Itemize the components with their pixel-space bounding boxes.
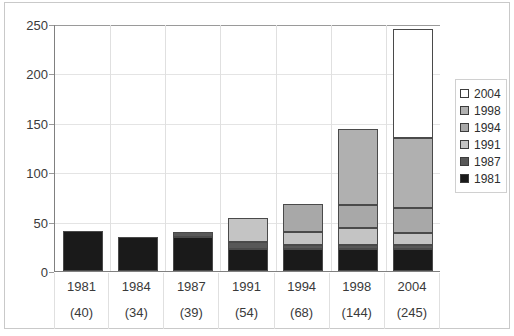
- x-axis-category-1998: 1998(144): [330, 273, 385, 329]
- category-separator: [110, 25, 111, 271]
- bar-segment-1981: [63, 231, 103, 271]
- x-axis-tick-label: 2004: [385, 279, 439, 294]
- category-separator: [165, 25, 166, 271]
- x-axis: 1981(40)1984(34)1987(39)1991(54)1994(68)…: [54, 273, 440, 329]
- y-axis-tick-label: 150: [8, 118, 48, 131]
- legend-item-2004[interactable]: 2004: [460, 85, 503, 102]
- x-axis-total-label: (245): [385, 305, 439, 320]
- bar-group-1981: [55, 25, 110, 271]
- x-axis-total-label: (144): [330, 305, 384, 320]
- x-axis-total-label: (34): [109, 305, 163, 320]
- bar-segment-1981: [393, 249, 433, 271]
- bar-segment-1991: [283, 232, 323, 245]
- legend-item-label: 2004: [474, 88, 501, 100]
- bar-segment-1991: [393, 233, 433, 245]
- x-axis-tick-label: 1987: [164, 279, 218, 294]
- bar-segment-1981: [283, 249, 323, 271]
- bar-segment-1981: [173, 237, 213, 271]
- bar-segment-1991: [228, 218, 268, 243]
- legend-item-1998[interactable]: 1998: [460, 102, 503, 119]
- x-axis-category-1984: 1984(34): [109, 273, 164, 329]
- bar-group-1998: [331, 25, 386, 271]
- bar-segment-1987: [338, 245, 378, 249]
- legend-item-1991[interactable]: 1991: [460, 136, 503, 153]
- y-axis-tick-label: 100: [8, 167, 48, 180]
- chart-figure: 050100150200250 1981(40)1984(34)1987(39)…: [0, 0, 514, 336]
- bar-segment-1981: [338, 249, 378, 271]
- x-axis-tick-label: 1994: [275, 279, 329, 294]
- x-axis-category-1987: 1987(39): [164, 273, 219, 329]
- legend-swatch-icon: [460, 123, 469, 132]
- plot-area: [54, 25, 440, 272]
- y-axis-tick-label: 200: [8, 68, 48, 81]
- bar-segment-1987: [228, 242, 268, 249]
- bar-segment-1998: [393, 138, 433, 208]
- x-axis-category-1981: 1981(40): [54, 273, 109, 329]
- x-axis-tick-label: 1998: [330, 279, 384, 294]
- x-axis-total-label: (39): [164, 305, 218, 320]
- bar-segment-1981: [118, 237, 158, 271]
- bar-group-1991: [220, 25, 275, 271]
- x-axis-tick-label: 1984: [109, 279, 163, 294]
- bar-segment-1987: [283, 245, 323, 249]
- bar-segment-1981: [228, 249, 268, 271]
- bar-segment-1994: [393, 208, 433, 234]
- x-axis-category-1994: 1994(68): [275, 273, 330, 329]
- category-separator: [331, 25, 332, 271]
- category-separator: [220, 25, 221, 271]
- cropped-title-strip: [0, 0, 514, 3]
- legend-swatch-icon: [460, 89, 469, 98]
- x-axis-total-label: (54): [219, 305, 273, 320]
- x-axis-tick-label: 1981: [55, 279, 108, 294]
- legend-item-1987[interactable]: 1987: [460, 153, 503, 170]
- y-axis-tick-label: 0: [8, 266, 48, 279]
- bar-group-1987: [165, 25, 220, 271]
- x-axis-total-label: (68): [275, 305, 329, 320]
- bar-group-2004: [386, 25, 441, 271]
- bar-segment-2004: [393, 29, 433, 138]
- legend-swatch-icon: [460, 174, 469, 183]
- x-axis-category-1991: 1991(54): [219, 273, 274, 329]
- bar-group-1984: [110, 25, 165, 271]
- bar-group-1994: [276, 25, 331, 271]
- category-separator: [276, 25, 277, 271]
- bar-segment-1987: [393, 245, 433, 249]
- legend-item-label: 1991: [474, 139, 501, 151]
- legend-swatch-icon: [460, 140, 469, 149]
- legend-item-label: 1998: [474, 105, 501, 117]
- legend-item-label: 1981: [474, 173, 501, 185]
- legend-swatch-icon: [460, 157, 469, 166]
- y-axis-tick-label: 50: [8, 217, 48, 230]
- legend-swatch-icon: [460, 106, 469, 115]
- legend-item-label: 1994: [474, 122, 501, 134]
- x-axis-tick-label: 1991: [219, 279, 273, 294]
- legend-item-label: 1987: [474, 156, 501, 168]
- y-axis-tick-label: 250: [8, 19, 48, 32]
- bar-segment-1994: [338, 205, 378, 228]
- x-axis-category-2004: 2004(245): [385, 273, 440, 329]
- legend-item-1994[interactable]: 1994: [460, 119, 503, 136]
- bar-segment-1991: [338, 228, 378, 246]
- legend-item-1981[interactable]: 1981: [460, 170, 503, 187]
- bar-segment-1994: [283, 204, 323, 233]
- chart-legend: 200419981994199119871981: [455, 79, 507, 193]
- x-axis-total-label: (40): [55, 305, 108, 320]
- bar-segment-1987: [173, 232, 213, 237]
- bar-segment-1998: [338, 129, 378, 205]
- category-separator: [386, 25, 387, 271]
